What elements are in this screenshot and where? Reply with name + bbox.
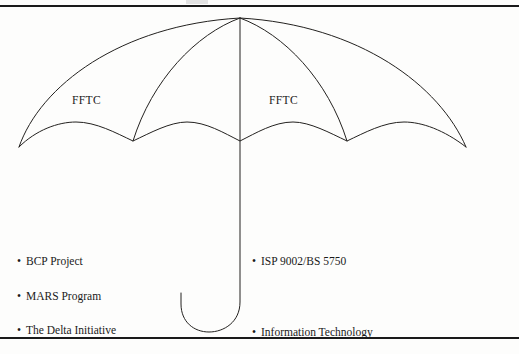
canopy-rib-left <box>133 18 240 141</box>
list-item-label: MARS Program <box>17 291 101 303</box>
list-item: • MARS Program <box>17 291 116 303</box>
list-item: • ISP 9002/BS 5750 <box>252 256 373 268</box>
left-bullet-list: • BCP Project • MARS Program • The Delta… <box>17 256 116 337</box>
list-item-label: BCP Project <box>17 256 83 268</box>
canopy-scalloped-edge <box>19 122 466 147</box>
canopy-label-fftc-right: FFTC <box>269 94 298 106</box>
list-item: • Information Technology <box>252 327 373 339</box>
canopy-label-fftc-left: FFTC <box>72 94 101 106</box>
right-bullet-list: • ISP 9002/BS 5750 • Information Technol… <box>252 256 373 338</box>
list-item-label: ISP 9002/BS 5750 <box>252 256 346 268</box>
list-item: • BCP Project <box>17 256 116 268</box>
list-item-label: The Delta Initiative <box>17 325 116 337</box>
list-item-label: Information Technology <box>252 327 373 339</box>
umbrella-shaft-and-handle <box>181 18 240 332</box>
bullet-icon: • <box>17 256 21 268</box>
list-item: • The Delta Initiative <box>17 325 116 337</box>
canopy-rib-right <box>240 18 347 141</box>
canopy-outer-dome <box>19 18 466 147</box>
bullet-icon: • <box>17 291 21 303</box>
bullet-icon: • <box>252 327 256 339</box>
bullet-icon: • <box>252 256 256 268</box>
scanned-page: FFTC FFTC • BCP Project • MARS Program •… <box>0 0 519 354</box>
bullet-icon: • <box>17 325 21 337</box>
